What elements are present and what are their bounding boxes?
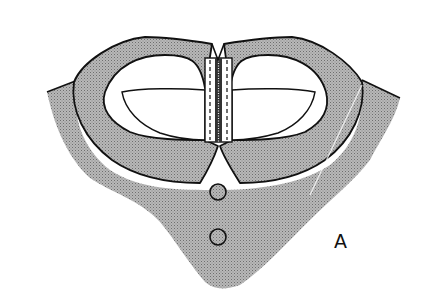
neck-opening-left [122,89,205,140]
button-upper [210,184,226,200]
button-lower [210,229,226,245]
collar-illustration [0,0,424,304]
figure-label: A [334,230,347,252]
